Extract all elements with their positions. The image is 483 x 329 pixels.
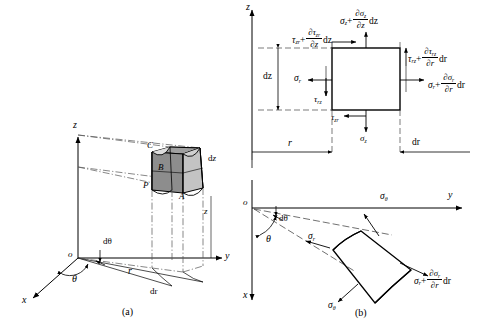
- panel-b-top-dr-label: dr: [412, 138, 420, 148]
- panel-a-y-axis-label: y: [225, 251, 229, 261]
- panel-a-origin-label: o: [68, 250, 73, 259]
- stress-wedge-sigma-theta-lower-label: σθ: [328, 301, 336, 312]
- panel-a-vertex-p-label: P: [143, 181, 149, 190]
- panel-b-top-dz-label: dz: [263, 72, 272, 82]
- panel-b-bottom-theta-label: θ: [266, 234, 271, 244]
- panel-b-bottom-y-axis-label: y: [448, 190, 452, 200]
- panel-b-bottom-origin-label: o: [243, 198, 248, 207]
- panel-a-x-axis-label: x: [22, 295, 26, 305]
- panel-a-r-label: r: [128, 266, 132, 276]
- stress-left-normal-label: σr: [294, 74, 301, 85]
- panel-b-top-z-axis-label: z: [246, 2, 250, 12]
- panel-a-theta-label: θ: [72, 274, 77, 284]
- panel-b-top-r-label: r: [288, 138, 292, 148]
- panel-a-z-height-label: z: [204, 207, 208, 216]
- panel-a-caption: (a): [122, 307, 133, 317]
- panel-b-bottom-dtheta-label: dθ: [279, 214, 288, 223]
- panel-a-dz-label: dz: [208, 154, 216, 163]
- panel-a-dr-label: dr: [150, 287, 158, 296]
- panel-b-bottom-x-axis-label: x: [243, 290, 247, 300]
- panel-a-vertex-c-label: C: [147, 141, 153, 150]
- stress-top-shear-label: τzr+∂τzr∂zdz: [292, 27, 332, 49]
- stress-right-shear-label: τrz+∂τrz∂rdr: [408, 46, 447, 68]
- stress-bottom-normal-label: σz: [360, 134, 367, 144]
- stress-top-normal-label: σz+∂σz∂zdz: [340, 8, 378, 30]
- stress-wedge-sigma-r-outer-label: σr+∂σr∂rdr: [414, 268, 451, 290]
- panel-a-dtheta-label: dθ: [103, 237, 112, 246]
- stress-left-shear-label: τrz: [314, 95, 322, 105]
- stress-wedge-sigma-r-inner-label: σr: [308, 232, 315, 243]
- panel-a-z-axis-label: z: [73, 120, 77, 130]
- panel-b-caption: (b): [355, 308, 367, 318]
- panel-a-vertex-a-label: A: [179, 192, 185, 201]
- stress-right-normal-label: σr+∂σr∂rdr: [428, 72, 465, 94]
- stress-wedge-sigma-theta-upper-label: σθ: [380, 192, 388, 203]
- panel-a-vertex-b-label: B: [158, 163, 164, 172]
- stress-bottom-shear-label: τzr: [331, 113, 339, 123]
